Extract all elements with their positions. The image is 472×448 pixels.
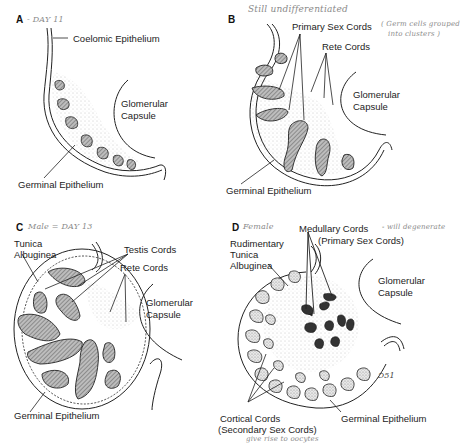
handwritten-note-germ-cells: ( Germ cells grouped: [381, 20, 460, 28]
panel-letter: A: [16, 14, 23, 25]
label-testis-cords: Testis Cords: [124, 244, 176, 255]
label-glomerular-capsule: Glomerular: [121, 98, 168, 109]
label-glomerular-capsule: Glomerular: [353, 89, 400, 100]
handwritten-note: Male = DAY 13: [28, 222, 93, 231]
label-glomerular-capsule: Glomerular: [146, 297, 193, 308]
handwritten-note: Female: [243, 222, 274, 231]
panel-letter: D: [232, 222, 239, 233]
label-cortical-cords: Cortical Cords: [220, 413, 280, 424]
handwritten-note-will-degenerate: - will degenerate: [382, 223, 445, 231]
label-primary-sex-cords: Primary Sex Cords: [292, 21, 372, 32]
label-glomerular-capsule-2: Capsule: [121, 110, 156, 121]
label-secondary-sex-cords: (Secondary Sex Cords): [218, 424, 317, 435]
label-glomerular-capsule: Glomerular: [378, 275, 425, 286]
handwritten-note-oocytes: give rise to oocytes: [246, 435, 319, 443]
label-germinal-epithelium: Germinal Epithelium: [18, 179, 104, 190]
label-rudimentary-tunica-albuginea-3: Albuginea: [230, 260, 272, 271]
panel-d-female: D Female Rudimentary Tunica Albuginea Me…: [236, 224, 472, 448]
panel-b-undifferentiated: B Still undifferentiated Primary Sex Cor…: [236, 0, 472, 224]
label-glomerular-capsule-2: Capsule: [146, 309, 181, 320]
label-germinal-epithelium: Germinal Epithelium: [226, 185, 312, 196]
label-rudimentary-tunica-albuginea: Rudimentary: [230, 238, 284, 249]
handwritten-note: - DAY 11: [27, 15, 64, 24]
label-germinal-epithelium: Germinal Epithelium: [14, 410, 100, 421]
artist-signature: Ɔ51: [378, 371, 395, 380]
label-rete-cords: Rete Cords: [322, 41, 370, 52]
label-rudimentary-tunica-albuginea-2: Tunica: [230, 249, 258, 260]
label-coelomic-epithelium: Coelomic Epithelium: [73, 33, 160, 44]
label-primary-sex-cords: (Primary Sex Cords): [318, 235, 404, 246]
handwritten-note: Still undifferentiated: [248, 4, 348, 14]
panel-letter: C: [16, 222, 23, 233]
panel-letter: B: [228, 14, 235, 25]
panel-c-male-day-13: C Male = DAY 13 Tunica Albuginea Testis …: [0, 224, 236, 448]
label-rete-cords: Rete Cords: [120, 262, 168, 273]
panel-a-day-11: A - DAY 11 Coelomic Epithelium Glomerula…: [0, 0, 236, 224]
label-glomerular-capsule-2: Capsule: [353, 101, 388, 112]
label-medullary-cords: Medullary Cords: [299, 223, 368, 234]
label-tunica-albuginea: Tunica: [14, 238, 42, 249]
label-tunica-albuginea-2: Albuginea: [14, 249, 56, 260]
label-germinal-epithelium: Germinal Epithelium: [341, 413, 427, 424]
label-glomerular-capsule-2: Capsule: [378, 287, 413, 298]
handwritten-note-clusters: into clusters ): [388, 30, 440, 38]
